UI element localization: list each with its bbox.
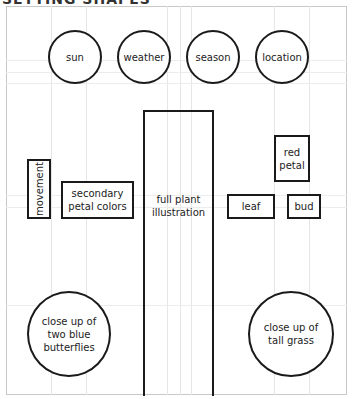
- location-circle[interactable]: location: [255, 30, 309, 84]
- full-plant-illustration-box[interactable]: full plant illustration: [143, 110, 214, 396]
- bud-label: bud: [294, 200, 313, 213]
- bud-box[interactable]: bud: [287, 194, 321, 219]
- weather-circle[interactable]: weather: [117, 30, 171, 84]
- butterflies-circle[interactable]: close up of two blue butterflies: [27, 291, 111, 377]
- movement-label: movement: [33, 162, 46, 216]
- red-petal-label: red petal: [279, 146, 304, 172]
- location-label: location: [262, 51, 302, 64]
- secondary-petal-colors-label: secondary petal colors: [68, 187, 126, 213]
- red-petal-box[interactable]: red petal: [274, 135, 310, 182]
- grid-line: [6, 83, 347, 84]
- tall-grass-label: close up of tall grass: [264, 321, 318, 347]
- secondary-petal-colors-box[interactable]: secondary petal colors: [61, 181, 134, 219]
- leaf-box[interactable]: leaf: [227, 194, 275, 219]
- sun-circle[interactable]: sun: [48, 30, 102, 84]
- season-circle[interactable]: season: [186, 30, 240, 84]
- leaf-label: leaf: [242, 200, 261, 213]
- butterflies-label: close up of two blue butterflies: [42, 315, 96, 354]
- season-label: season: [195, 51, 230, 64]
- sun-label: sun: [66, 51, 84, 64]
- weather-label: weather: [124, 51, 165, 64]
- full-plant-illustration-label: full plant illustration: [152, 193, 205, 219]
- movement-box[interactable]: movement: [27, 159, 51, 219]
- tall-grass-circle[interactable]: close up of tall grass: [248, 291, 334, 377]
